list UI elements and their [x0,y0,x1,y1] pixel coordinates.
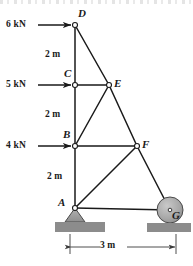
load-label-5kn: 5 kN [6,80,26,90]
node-label-G: G [172,210,180,221]
node-label-D: D [78,8,86,19]
member-AG [75,208,170,210]
joint-A [73,206,78,211]
span-dimension [70,234,176,254]
ground-block-right [147,223,191,232]
node-label-A: A [58,197,65,208]
member-BE [75,85,109,146]
dimension-label-cb: 2 m [45,110,60,120]
node-label-E: E [114,78,121,89]
figure-canvas: 6 kN 5 kN 4 kN D C E B F A G 2 m 2 m 2 m… [0,0,193,266]
load-label-4kn: 4 kN [6,141,26,151]
member-AF [75,146,137,208]
truss-joints [73,23,140,211]
joint-E [107,83,112,88]
joint-F [135,144,140,149]
truss-diagram [0,0,193,266]
member-DE [75,25,109,85]
truss-members [75,25,170,210]
node-label-C: C [64,68,71,79]
member-EF [109,85,137,146]
joint-C [73,83,78,88]
dimension-label-dc: 2 m [45,50,60,60]
dimension-label-span: 3 m [100,241,115,251]
node-label-F: F [142,139,149,150]
joint-B [73,144,78,149]
load-label-6kn: 6 kN [6,20,26,30]
node-label-B: B [63,129,70,140]
joint-D [73,23,78,28]
ground-block-left [55,222,105,232]
dimension-label-ba: 2 m [47,172,62,182]
